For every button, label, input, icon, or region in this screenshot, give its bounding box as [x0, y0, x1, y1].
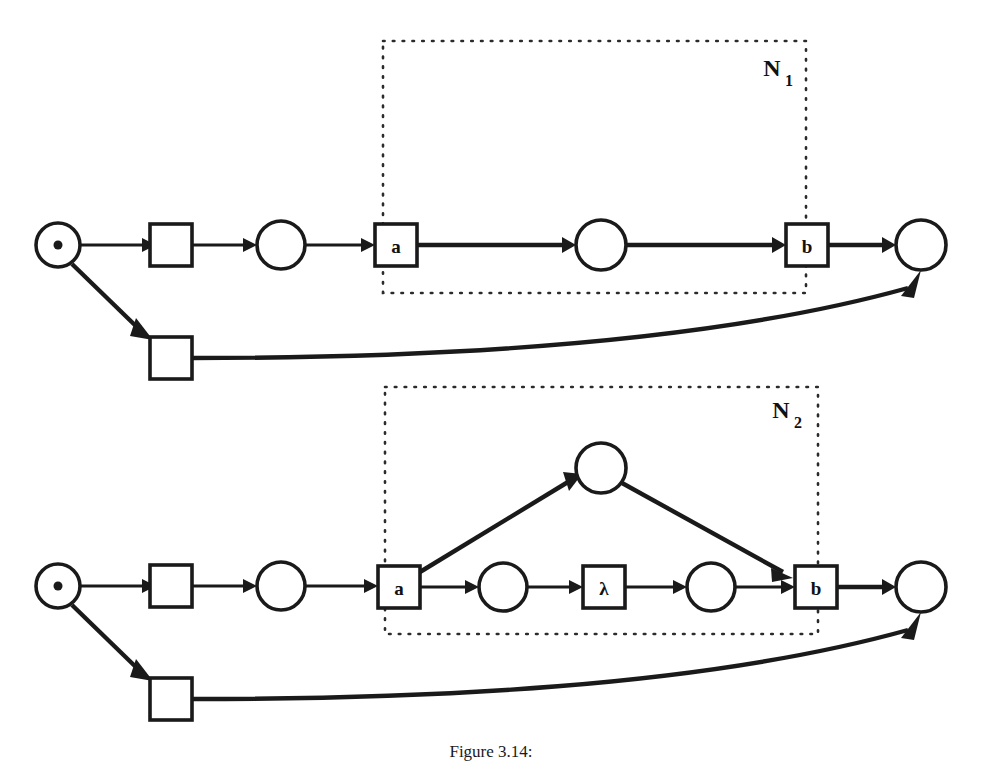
arc-lowplace-a-to-lambda-2	[527, 580, 583, 594]
place-lower-b-2	[687, 563, 735, 611]
transition-silent-top-1	[150, 224, 192, 266]
transition-a-2: a	[378, 566, 420, 608]
arc-b-to-end-2	[837, 579, 896, 595]
transition-lambda-2: λ	[583, 566, 625, 608]
place-upper-2	[576, 443, 626, 493]
arc-feedback-1	[192, 270, 921, 358]
place-start-1	[36, 223, 80, 267]
figure-caption: Figure 3.14:	[0, 742, 982, 762]
transition-b-2-label: b	[811, 578, 822, 599]
arc-a-to-lowplace-a-2	[420, 580, 479, 594]
arc-a-to-inner-1	[417, 237, 576, 253]
arc-inner-to-b-1	[626, 237, 786, 253]
place-lower-a-2	[479, 563, 527, 611]
arc-a-to-upper-2	[420, 472, 582, 572]
subnet-label-n1-name: N	[763, 55, 781, 81]
transition-silent-bottom-2	[150, 678, 192, 720]
arc-silent-to-mid-1	[192, 238, 257, 252]
transition-silent-bottom-1	[150, 337, 192, 379]
arc-start-to-silent-bottom-1	[72, 264, 153, 340]
arc-start-to-silent-top-1	[80, 238, 156, 252]
token-dot	[54, 241, 63, 250]
arc-mid-to-a-2	[305, 579, 378, 593]
subnet-label-n2: N 2	[772, 397, 802, 431]
subnet-label-n1: N 1	[763, 55, 793, 89]
transition-a-2-label: a	[394, 578, 404, 599]
transition-a-1: a	[375, 224, 417, 266]
net-2-group: a λ b N 2	[36, 387, 946, 720]
transition-a-1-label: a	[391, 236, 401, 257]
arc-start-to-silent-bottom-2	[72, 605, 153, 681]
arc-feedback-2	[192, 612, 921, 699]
arc-b-to-end-1	[828, 237, 896, 253]
transition-silent-top-2	[150, 565, 192, 607]
net-1-group: a b N 1	[36, 41, 946, 379]
arc-mid-to-a-1	[305, 238, 375, 252]
subnet-label-n2-name: N	[772, 397, 790, 423]
arc-start-to-silent-top-2	[80, 579, 156, 593]
place-mid-1	[257, 221, 305, 269]
subnet-label-n2-subscript: 2	[794, 414, 802, 431]
arc-lambda-to-lowplace-b-2	[625, 580, 687, 594]
place-mid-2	[257, 562, 305, 610]
arc-lowplace-b-to-b-2	[735, 580, 795, 594]
place-end-2	[896, 562, 946, 612]
transition-lambda-2-label: λ	[599, 578, 609, 599]
transition-b-1-label: b	[802, 236, 813, 257]
place-inner-1	[576, 220, 626, 270]
transition-b-1: b	[786, 224, 828, 266]
place-start-2	[36, 564, 80, 608]
arc-silent-to-mid-2	[192, 579, 257, 593]
token-dot	[54, 582, 63, 591]
transition-b-2: b	[795, 566, 837, 608]
place-end-1	[896, 220, 946, 270]
subnet-label-n1-subscript: 1	[785, 72, 793, 89]
